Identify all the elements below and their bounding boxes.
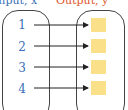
mapping-arrows	[0, 0, 128, 110]
